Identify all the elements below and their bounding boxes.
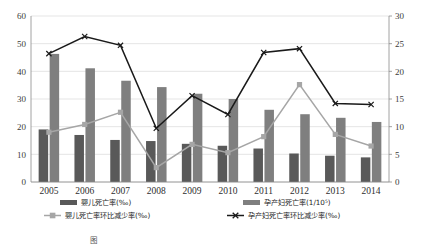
right-tick-label: 15 [395,94,405,104]
bar [361,157,371,182]
x-axis-label: 2009 [183,186,202,196]
data-point-marker [82,122,87,127]
bar [193,94,203,182]
data-point-marker [297,82,302,87]
combo-chart: 0102030405060 051015202530 2005200620072… [0,0,421,246]
left-tick-label: 60 [17,11,27,21]
x-axis-label: 2007 [111,186,130,196]
legend-swatch [243,200,260,205]
bar [50,54,60,182]
right-tick-label: 0 [395,177,400,187]
x-axis-label: 2013 [326,186,345,196]
data-point-marker [190,142,195,147]
left-tick-label: 0 [22,177,27,187]
caption-text: 图 [90,236,97,245]
right-tick-label: 25 [395,39,405,49]
x-axis-label: 2006 [75,186,94,196]
bar [253,149,263,182]
left-tick-label: 50 [17,39,27,49]
bar [372,122,382,182]
x-axis-label: 2011 [254,186,273,196]
bar [39,129,49,182]
left-tick-label: 10 [17,150,27,160]
data-point-marker [333,132,338,137]
bar [121,81,131,182]
left-tick-label: 40 [17,67,27,77]
bar [289,154,299,183]
bar [110,140,120,182]
right-tick-label: 20 [395,67,405,77]
x-axis-label: 2010 [218,186,237,196]
bar [146,141,156,182]
bar [325,156,335,182]
x-axis-label: 2005 [39,186,58,196]
bar [300,114,310,182]
data-point-marker [261,134,266,139]
legend-label: 婴儿死亡率(‰) [81,198,131,207]
bar [74,135,84,182]
legend-label: 孕产妇死亡率(1/10⁵) [264,198,331,207]
chart-background [0,0,421,246]
right-tick-label: 5 [395,150,400,160]
x-axis-label: 2012 [290,186,309,196]
chart-container: 0102030405060 051015202530 2005200620072… [0,0,421,246]
legend-swatch [60,200,77,205]
right-tick-label: 10 [395,122,405,132]
legend-label: 婴儿死亡率环比减少率(‰) [65,211,150,220]
legend-label: 孕产妇死亡率环比减少率(‰) [248,211,340,220]
x-axis-label: 2008 [147,186,166,196]
data-point-marker [118,110,123,115]
bar [264,110,274,182]
right-tick-label: 30 [395,11,405,21]
left-tick-label: 30 [17,94,27,104]
data-point-marker [225,150,230,155]
x-axis-label: 2014 [362,186,381,196]
data-point-marker [154,165,159,170]
data-point-marker [46,130,51,135]
bar [336,118,346,182]
figure-caption: 图 [90,236,97,245]
left-tick-label: 20 [17,122,27,132]
legend-marker [50,213,56,219]
data-point-marker [369,143,374,148]
